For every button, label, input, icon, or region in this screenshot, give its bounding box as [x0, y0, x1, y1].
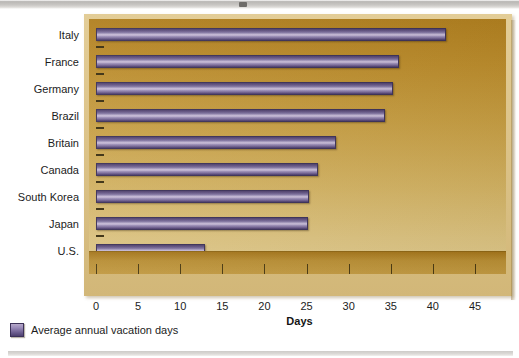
x-tick-label: 5: [135, 300, 141, 312]
x-tick: [391, 264, 392, 274]
x-tick: [433, 264, 434, 274]
category-label: U.S.: [58, 245, 79, 257]
x-tick-label: 0: [93, 300, 99, 312]
x-tick-label: 40: [427, 300, 439, 312]
legend-swatch-icon: [10, 323, 24, 337]
bar: [96, 136, 336, 149]
category-tick: [96, 46, 104, 48]
x-axis-band: [89, 251, 506, 274]
bar-row: [89, 50, 506, 77]
category-label: Germany: [34, 83, 79, 95]
legend-item-label: Average annual vacation days: [31, 324, 178, 336]
bar: [96, 82, 393, 95]
category-label: South Korea: [18, 191, 79, 203]
x-tick-label: 20: [258, 300, 270, 312]
x-tick: [138, 264, 139, 274]
bar-row: [89, 23, 506, 50]
bar-chart: [84, 14, 512, 296]
x-tick: [475, 264, 476, 274]
x-tick: [96, 264, 97, 274]
scan-artifact-top: [0, 0, 519, 9]
bar: [96, 217, 308, 230]
category-tick: [96, 235, 104, 237]
category-label: Italy: [59, 29, 79, 41]
category-tick: [96, 154, 104, 156]
x-tick-label: 30: [343, 300, 355, 312]
bar-row: [89, 185, 506, 212]
bar-row: [89, 212, 506, 239]
category-label: Brazil: [51, 110, 79, 122]
category-axis-labels: ItalyFranceGermanyBrazilBritainCanadaSou…: [0, 14, 79, 296]
x-tick: [222, 264, 223, 274]
bar: [96, 163, 318, 176]
x-axis-title-text: Days: [286, 315, 312, 327]
category-tick: [96, 181, 104, 183]
x-tick: [180, 264, 181, 274]
scan-artifact-bottom: [8, 351, 513, 356]
x-tick: [264, 264, 265, 274]
bar-row: [89, 77, 506, 104]
bar: [96, 109, 385, 122]
x-tick: [349, 264, 350, 274]
x-tick-label: 45: [469, 300, 481, 312]
category-tick: [96, 73, 104, 75]
category-label: Japan: [49, 218, 79, 230]
chart-legend: Average annual vacation days: [10, 323, 178, 337]
bar-row: [89, 158, 506, 185]
x-tick-label: 35: [385, 300, 397, 312]
category-label: France: [45, 56, 79, 68]
bar: [96, 190, 309, 203]
x-tick-label: 10: [174, 300, 186, 312]
scan-artifact-notch: [239, 2, 247, 7]
category-tick: [96, 100, 104, 102]
x-tick-label: 15: [216, 300, 228, 312]
plot-area: [89, 19, 506, 274]
category-label: Britain: [48, 137, 79, 149]
bar: [96, 28, 446, 41]
bar-row: [89, 104, 506, 131]
x-tick-label: 25: [300, 300, 312, 312]
category-label: Canada: [40, 164, 79, 176]
bar-row: [89, 131, 506, 158]
x-tick: [307, 264, 308, 274]
category-tick: [96, 127, 104, 129]
bar: [96, 55, 399, 68]
category-tick: [96, 208, 104, 210]
chart-frame-shadow: [511, 20, 516, 300]
